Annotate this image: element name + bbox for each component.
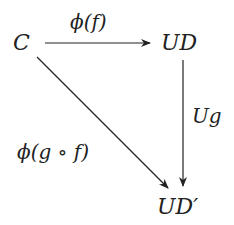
edge-label-ug: Ug: [192, 106, 222, 126]
node-ud: UD: [161, 32, 197, 54]
arrow-c-to-udprime: [37, 57, 168, 188]
edge-label-phi-f: ϕ(f): [70, 12, 107, 32]
edge-label-phi-g-compose-f: ϕ(g ∘ f): [17, 142, 89, 162]
node-c: C: [13, 32, 30, 54]
commutative-diagram: C UD UD′ ϕ(f) Ug ϕ(g ∘ f): [0, 0, 234, 225]
node-ud-prime: UD′: [157, 196, 198, 218]
